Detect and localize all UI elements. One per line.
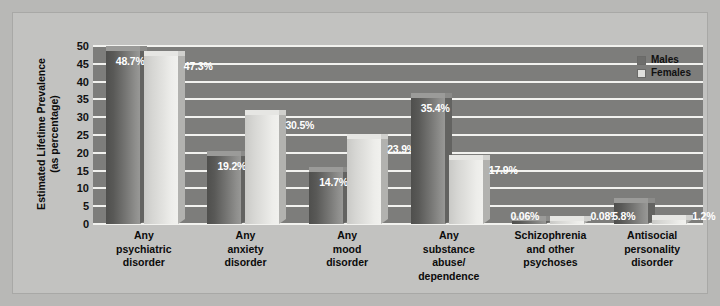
bar-series-container: 48.7%47.3%19.2%30.5%14.7%23.9%35.4%17.9%…	[93, 46, 703, 224]
bar-corner-3d	[483, 155, 490, 160]
legend-item-females[interactable]: Females	[637, 67, 691, 79]
bar-value-label: 19.2%	[217, 160, 246, 172]
bar-face	[550, 221, 584, 224]
bar-value-label: 0.06%	[510, 210, 539, 222]
bar-males-0[interactable]	[106, 51, 140, 224]
x-axis-category-labels: Any psychiatric disorderAny anxiety diso…	[93, 229, 703, 285]
bar-face	[347, 139, 381, 224]
bar-value-label: 35.4%	[421, 102, 450, 114]
legend-swatch-females	[637, 69, 646, 78]
bar-females-5[interactable]	[652, 220, 686, 224]
x-label-4: Schizophrenia and other psychoses	[500, 229, 602, 270]
bar-group: 0.06%0.08%	[500, 46, 602, 224]
bar-top-3d	[614, 198, 648, 203]
y-axis-title: Estimated Lifetime Prevalence (as percen…	[35, 39, 61, 229]
bar-group: 35.4%17.9%	[398, 46, 500, 224]
bar-face	[106, 51, 140, 224]
y-tick-5: 5	[83, 201, 89, 212]
y-axis-title-line1: Estimated Lifetime Prevalence	[35, 58, 47, 210]
bar-females-4[interactable]	[550, 221, 584, 224]
bar-top-3d	[207, 151, 241, 156]
y-tick-30: 30	[77, 112, 89, 123]
bar-females-1[interactable]	[245, 115, 279, 224]
legend-label-males: Males	[651, 55, 679, 65]
y-tick-10: 10	[77, 183, 89, 194]
bar-face	[449, 160, 483, 224]
chart-legend: Males Females	[633, 52, 695, 83]
bar-top-3d	[347, 134, 381, 139]
plot-area: 48.7%47.3%19.2%30.5%14.7%23.9%35.4%17.9%…	[93, 46, 703, 224]
bar-corner-3d	[279, 110, 286, 115]
y-tick-25: 25	[77, 130, 89, 141]
y-tick-35: 35	[77, 94, 89, 105]
bar-value-label: 1.2%	[692, 210, 715, 222]
bar-top-3d	[449, 155, 483, 160]
bar-side-3d	[178, 51, 185, 224]
bar-females-2[interactable]	[347, 139, 381, 224]
bar-top-3d	[652, 215, 686, 220]
x-label-3: Any substance abuse/ dependence	[398, 229, 500, 283]
y-tick-40: 40	[77, 76, 89, 87]
x-label-0: Any psychiatric disorder	[93, 229, 195, 270]
chart-card: Estimated Lifetime Prevalence (as percen…	[12, 12, 708, 294]
legend-swatch-males	[637, 56, 646, 65]
bar-corner-3d	[648, 198, 655, 203]
x-label-2: Any mood disorder	[296, 229, 398, 270]
bar-face	[144, 56, 178, 224]
legend-item-males[interactable]: Males	[637, 54, 691, 66]
bar-top-3d	[245, 110, 279, 115]
bar-females-3[interactable]	[449, 160, 483, 224]
legend-label-females: Females	[651, 68, 691, 78]
bar-top-3d	[106, 46, 140, 51]
bar-top-3d	[144, 51, 178, 56]
bar-top-3d	[550, 216, 584, 221]
bar-corner-3d	[178, 51, 185, 56]
chart-figure: Estimated Lifetime Prevalence (as percen…	[0, 0, 720, 306]
x-label-5: Antisocial personality disorder	[601, 229, 703, 270]
bar-top-3d	[309, 167, 343, 172]
bar-corner-3d	[381, 134, 388, 139]
bar-males-3[interactable]	[411, 98, 445, 224]
y-tick-0: 0	[83, 219, 89, 230]
bar-group: 48.7%47.3%	[93, 46, 195, 224]
bar-value-label: 14.7%	[319, 176, 348, 188]
x-label-1: Any anxiety disorder	[195, 229, 297, 270]
y-tick-50: 50	[77, 41, 89, 52]
bar-top-3d	[411, 93, 445, 98]
y-axis-tick-labels: 50454035302520151050	[65, 40, 89, 230]
y-axis-title-line2: (as percentage)	[48, 95, 60, 173]
bar-face	[245, 115, 279, 224]
y-tick-20: 20	[77, 147, 89, 158]
bar-group: 19.2%30.5%	[195, 46, 297, 224]
bar-group: 14.7%23.9%	[296, 46, 398, 224]
y-tick-45: 45	[77, 58, 89, 69]
bar-value-label: 5.8%	[612, 210, 635, 222]
y-tick-15: 15	[77, 165, 89, 176]
bar-females-0[interactable]	[144, 56, 178, 224]
bar-value-label: 48.7%	[116, 55, 145, 67]
bar-face	[411, 98, 445, 224]
bar-corner-3d	[445, 93, 452, 98]
bar-face	[652, 220, 686, 224]
